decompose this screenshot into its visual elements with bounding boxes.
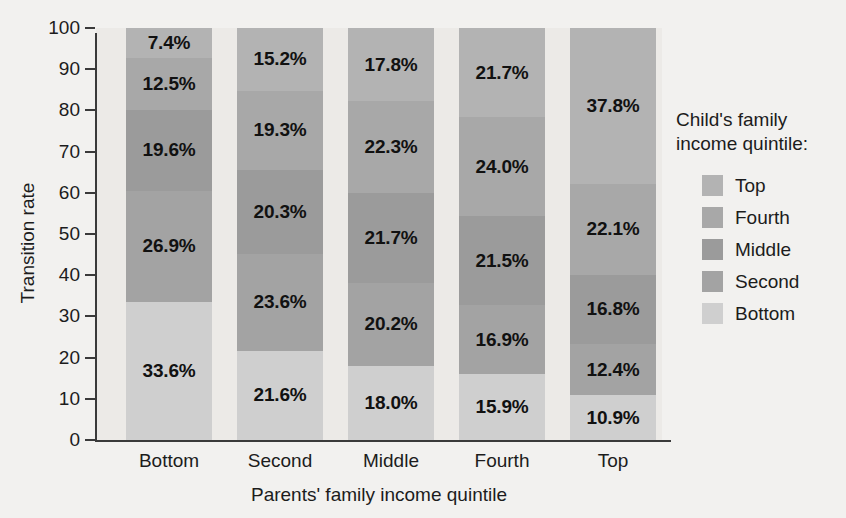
legend-title: Child's family income quintile: [676,108,846,156]
y-axis-tick-label: 30 [36,306,80,325]
bar-group: 15.9%16.9%21.5%24.0%21.7% [459,28,545,440]
y-axis-tick [85,27,95,29]
bar-segment[interactable]: 18.0% [348,366,434,440]
y-axis-tick-label: 20 [36,348,80,367]
y-axis-tick [85,151,95,153]
legend-item[interactable]: Bottom [702,298,846,330]
x-axis-line [95,440,671,442]
x-axis-tick-label: Fourth [447,450,557,472]
legend-item-label: Bottom [735,303,795,325]
legend-item[interactable]: Top [702,170,846,202]
legend-title-line-1: Child's family [676,108,846,132]
legend-item-label: Middle [735,239,791,261]
bar-segment-value-label: 22.3% [365,136,418,158]
bar-group: 18.0%20.2%21.7%22.3%17.8% [348,28,434,440]
y-axis-title: Transition rate [17,123,39,363]
bar-segment[interactable]: 26.9% [126,191,212,302]
bar-segment[interactable]: 21.6% [237,351,323,440]
bar-group: 33.6%26.9%19.6%12.5%7.4% [126,28,212,440]
legend-item[interactable]: Middle [702,234,846,266]
legend-item-label: Top [735,175,766,197]
bar-segment[interactable]: 15.2% [237,28,323,91]
legend-item[interactable]: Second [702,266,846,298]
x-axis-tick-label: Bottom [114,450,224,472]
y-axis-tick [85,274,95,276]
bar-segment[interactable]: 7.4% [126,28,212,58]
bar-segment[interactable]: 22.1% [570,184,656,275]
bar-segment-value-label: 21.5% [476,250,529,272]
bar-segment[interactable]: 23.6% [237,254,323,351]
y-axis-tick [85,315,95,317]
x-axis-tick-label: Middle [336,450,446,472]
bar-segment-value-label: 20.2% [365,313,418,335]
bar-segment-value-label: 21.7% [365,227,418,249]
legend-item-label: Fourth [735,207,790,229]
y-axis-tick [85,233,95,235]
bar-segment[interactable]: 16.9% [459,305,545,375]
bar-segment-value-label: 18.0% [365,392,418,414]
bar-segment-value-label: 12.4% [587,359,640,381]
bar-segment[interactable]: 19.3% [237,91,323,171]
bar-segment-value-label: 15.9% [476,396,529,418]
bar-segment[interactable]: 16.8% [570,275,656,344]
bar-segment-value-label: 17.8% [365,54,418,76]
bar-group: 21.6%23.6%20.3%19.3%15.2% [237,28,323,440]
bar-segment-value-label: 20.3% [254,201,307,223]
legend-swatch-icon [702,303,723,324]
legend-swatch-icon [702,207,723,228]
bar-segment-value-label: 24.0% [476,156,529,178]
y-axis-tick-label: 50 [36,224,80,243]
bar-segment[interactable]: 10.9% [570,395,656,440]
bar-segment[interactable]: 12.4% [570,344,656,395]
legend-item[interactable]: Fourth [702,202,846,234]
bar-segment-value-label: 37.8% [587,95,640,117]
bar-segment-value-label: 19.6% [143,139,196,161]
bar-segment[interactable]: 19.6% [126,110,212,191]
y-axis-tick [85,109,95,111]
y-axis-tick [85,68,95,70]
bar-segment[interactable]: 33.6% [126,302,212,440]
bar-segment[interactable]: 20.2% [348,283,434,366]
y-axis-tick [85,398,95,400]
bar-segment[interactable]: 17.8% [348,28,434,101]
bar-segment-value-label: 21.6% [254,384,307,406]
legend-swatch-icon [702,175,723,196]
y-axis-tick-label: 0 [36,430,80,449]
legend-swatch-icon [702,239,723,260]
bar-segment-value-label: 26.9% [143,235,196,257]
bar-segment[interactable]: 21.7% [459,28,545,117]
bar-segment-value-label: 23.6% [254,291,307,313]
y-axis-tick-label: 80 [36,100,80,119]
bar-segment-value-label: 22.1% [587,218,640,240]
legend-swatch-icon [702,271,723,292]
y-axis-tick-label: 90 [36,59,80,78]
bar-segment[interactable]: 21.5% [459,216,545,305]
stacked-bar-chart: 0102030405060708090100 Transition rate 3… [0,0,846,518]
bar-segment-value-label: 19.3% [254,119,307,141]
y-axis-tick [85,439,95,441]
bar-segment[interactable]: 37.8% [570,28,656,184]
bar-segment[interactable]: 12.5% [126,58,212,110]
y-axis-tick-label: 60 [36,183,80,202]
bar-group: 10.9%12.4%16.8%22.1%37.8% [570,28,656,440]
bar-segment[interactable]: 21.7% [348,193,434,282]
bar-segment-value-label: 16.9% [476,329,529,351]
legend-item-label: Second [735,271,799,293]
y-axis-tick-label: 10 [36,389,80,408]
y-axis-tick-label: 70 [36,142,80,161]
x-axis-title: Parents' family income quintile [96,484,662,506]
legend-title-line-2: income quintile: [676,132,846,156]
legend: Child's family income quintile: TopFourt… [676,108,846,330]
x-axis-tick-label: Second [225,450,335,472]
y-axis-tick-label: 100 [36,18,80,37]
bar-segment-value-label: 7.4% [148,32,191,54]
bar-segment-value-label: 12.5% [143,73,196,95]
bar-segment[interactable]: 24.0% [459,117,545,216]
bar-segment[interactable]: 20.3% [237,170,323,254]
bar-segment[interactable]: 15.9% [459,374,545,440]
x-axis-tick-label: Top [558,450,668,472]
bar-segment-value-label: 10.9% [587,407,640,429]
bar-segment[interactable]: 22.3% [348,101,434,193]
bar-segment-value-label: 21.7% [476,62,529,84]
y-axis-tick [85,357,95,359]
